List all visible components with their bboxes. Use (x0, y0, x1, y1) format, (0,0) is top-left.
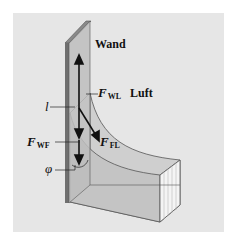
label-angle: φ (45, 162, 52, 175)
force-wall-fluid-main: F (27, 134, 36, 149)
label-force-fluid-air: FFL (100, 135, 120, 150)
label-wall: Wand (95, 38, 126, 50)
label-force-wall-air: FWL (98, 86, 121, 101)
capillary-wall-diagram: Wand Luft FWL l FFL FWF φ (0, 0, 238, 247)
force-wall-air-main: F (98, 85, 107, 100)
force-fluid-air-main: F (100, 134, 109, 149)
force-fluid-air-sub: FL (110, 141, 120, 150)
label-length: l (45, 100, 49, 113)
wall-side (65, 43, 69, 203)
label-air: Luft (130, 87, 153, 99)
force-wall-fluid-sub: WF (37, 141, 50, 150)
label-force-wall-fluid: FWF (27, 135, 50, 150)
force-wall-air-sub: WL (108, 92, 121, 101)
